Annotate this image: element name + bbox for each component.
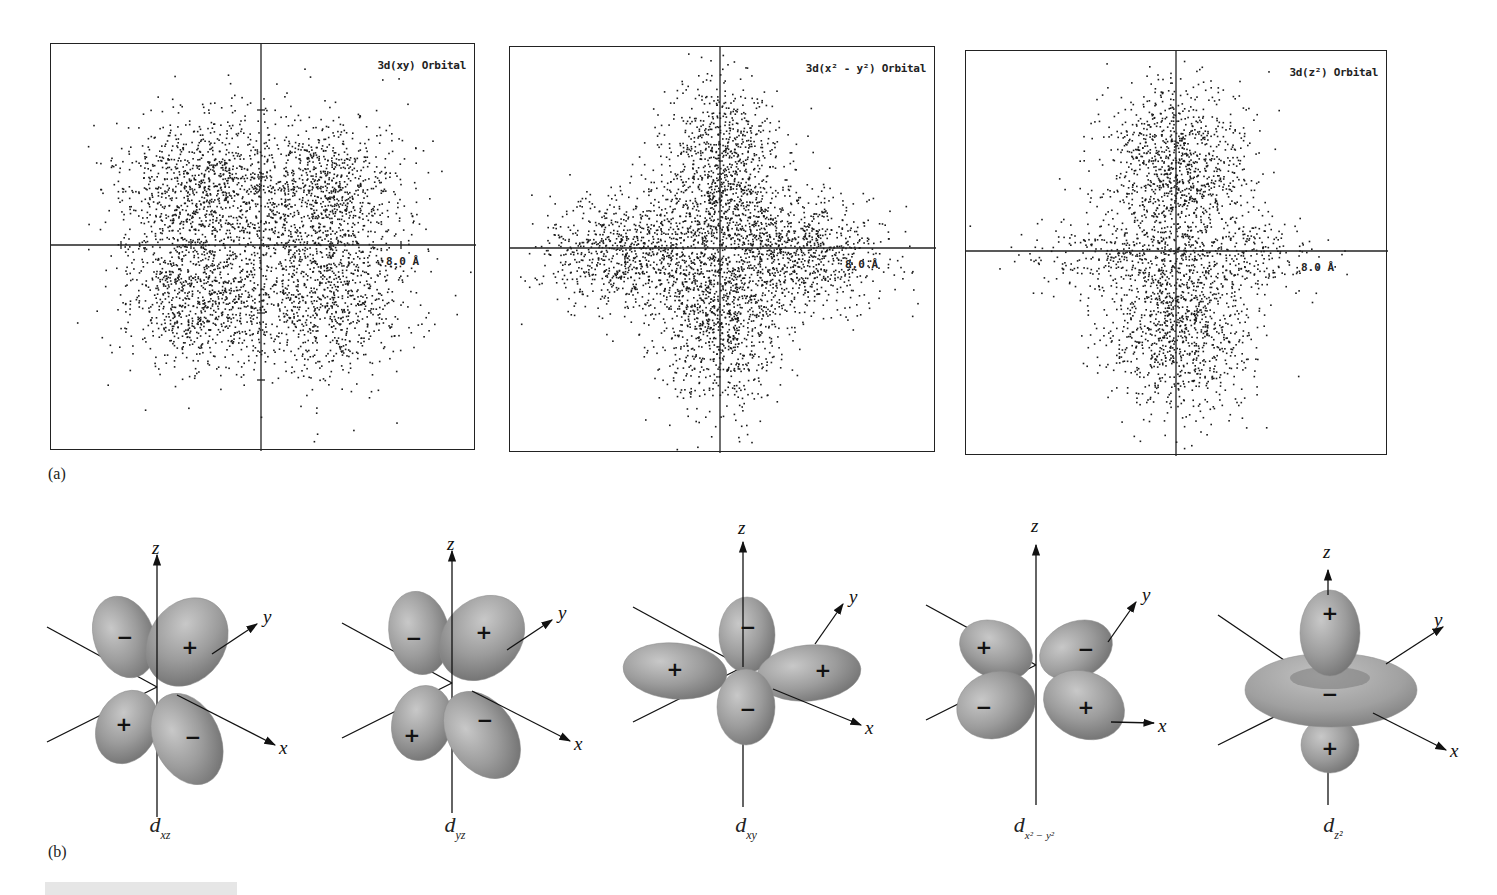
svg-text:−: − xyxy=(406,626,423,650)
svg-text:z: z xyxy=(446,533,455,554)
orbital-dz2: +−+zyx xyxy=(1218,541,1459,805)
svg-text:−: − xyxy=(185,725,202,749)
svg-text:y: y xyxy=(847,586,858,607)
svg-text:−: − xyxy=(477,708,494,732)
svg-text:−: − xyxy=(740,615,757,639)
svg-text:+: + xyxy=(1322,736,1339,760)
svg-text:+: + xyxy=(1322,601,1339,625)
svg-text:y: y xyxy=(556,602,567,623)
caption-dyz: dyz xyxy=(445,812,466,841)
orbital-dxy: −++−zyx xyxy=(621,517,874,807)
caption-main: d xyxy=(150,812,161,837)
svg-text:+: + xyxy=(116,712,133,736)
svg-text:+: + xyxy=(815,658,832,682)
caption-subscript: yz xyxy=(456,828,466,842)
part-b-label: (b) xyxy=(48,843,67,861)
gray-bar xyxy=(45,882,237,895)
svg-text:−: − xyxy=(740,697,757,721)
caption-dz2: dz² xyxy=(1323,812,1342,841)
svg-text:+: + xyxy=(667,657,684,681)
svg-text:+: + xyxy=(976,635,993,659)
svg-text:+: + xyxy=(182,635,199,659)
caption-main: d xyxy=(735,812,746,837)
caption-main: d xyxy=(1323,812,1334,837)
orbital-dyz: −++−zyx xyxy=(342,533,583,813)
caption-subscript: z² xyxy=(1334,828,1342,842)
caption-main: d xyxy=(1014,812,1025,837)
caption-dx2-y2: dx² − y² xyxy=(1014,812,1054,839)
svg-text:y: y xyxy=(261,606,272,627)
svg-text:z: z xyxy=(151,537,160,558)
orbital-dx2y2: +−−+zyx xyxy=(926,515,1167,805)
caption-main: d xyxy=(445,812,456,837)
caption-dxy: dxy xyxy=(735,812,757,841)
svg-text:x: x xyxy=(864,717,874,738)
caption-subscript: x² − y² xyxy=(1025,829,1054,841)
caption-subscript: xy xyxy=(746,828,757,842)
caption-dxz: dxz xyxy=(150,812,171,841)
svg-text:x: x xyxy=(573,733,583,754)
svg-text:+: + xyxy=(1078,695,1095,719)
svg-text:x: x xyxy=(1157,715,1167,736)
svg-text:−: − xyxy=(117,625,134,649)
svg-text:+: + xyxy=(476,620,493,644)
caption-subscript: xz xyxy=(161,828,171,842)
svg-text:z: z xyxy=(737,517,746,538)
svg-text:y: y xyxy=(1432,609,1443,630)
svg-text:y: y xyxy=(1140,584,1151,605)
svg-text:z: z xyxy=(1322,541,1331,562)
svg-text:x: x xyxy=(278,737,288,758)
svg-text:−: − xyxy=(976,695,993,719)
svg-text:−: − xyxy=(1078,637,1095,661)
svg-text:+: + xyxy=(404,723,421,747)
svg-text:x: x xyxy=(1449,740,1459,761)
svg-text:z: z xyxy=(1030,515,1039,536)
orbital-diagrams: −++−zyx−++−zyx−++−zyx+−−+zyx+−+zyx xyxy=(0,0,1497,895)
svg-text:−: − xyxy=(1322,682,1339,706)
orbital-dxz: −++−zyx xyxy=(47,537,288,817)
